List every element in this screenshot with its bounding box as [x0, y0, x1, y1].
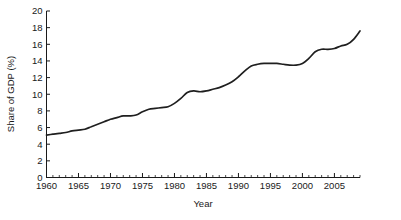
y-tick-label: 6: [37, 122, 42, 133]
x-tick-label: 1985: [196, 180, 217, 191]
y-tick-label: 14: [32, 55, 43, 66]
y-tick-label: 20: [32, 5, 43, 16]
x-tick-label: 1970: [100, 180, 121, 191]
x-tick-label: 1990: [228, 180, 249, 191]
y-axis-title: Share of GDP (%): [5, 56, 16, 132]
y-tick-label: 4: [37, 139, 42, 150]
x-tick-label: 1965: [68, 180, 89, 191]
y-tick-label: 8: [37, 105, 42, 116]
chart-figure: Share of GDP (%) Year 02468101214161820 …: [0, 0, 401, 220]
y-tick-label: 10: [32, 89, 43, 100]
x-axis-title: Year: [193, 198, 212, 209]
y-tick-label: 16: [32, 39, 43, 50]
data-series-line: [47, 31, 361, 135]
y-tick-label: 2: [37, 155, 42, 166]
x-tick-label: 1980: [164, 180, 185, 191]
x-tick-label: 1960: [36, 180, 57, 191]
y-axis: 02468101214161820: [32, 5, 50, 183]
x-tick-label: 2000: [292, 180, 313, 191]
y-tick-label: 12: [32, 72, 43, 83]
line-chart: Share of GDP (%) Year 02468101214161820 …: [0, 0, 401, 220]
x-tick-label: 1975: [132, 180, 153, 191]
axis-spines: [46, 11, 360, 178]
x-axis: 1960196519701975198019851990199520002005: [36, 173, 360, 191]
x-tick-label: 1995: [260, 180, 281, 191]
x-tick-label: 2005: [324, 180, 345, 191]
y-tick-label: 18: [32, 22, 43, 33]
